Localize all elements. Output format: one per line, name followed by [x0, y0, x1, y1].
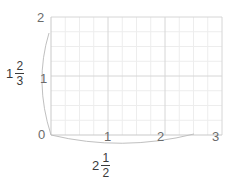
horizontal-dimension-label: 2 1 2 [92, 152, 110, 179]
horizontal-label-whole: 2 [92, 159, 99, 172]
x-tick-label-1: 1 [104, 130, 111, 143]
x-tick-label-2: 2 [157, 130, 164, 143]
vertical-dimension-label: 1 2 3 [6, 60, 24, 87]
plot-svg [0, 0, 229, 181]
coordinate-grid-figure: 2 1 0 1 2 3 1 2 3 2 1 2 [0, 0, 229, 181]
y-tick-label-2: 2 [37, 11, 44, 24]
vertical-label-denominator: 3 [15, 74, 24, 87]
vertical-label-numerator: 2 [15, 60, 24, 73]
x-tick-label-3: 3 [212, 130, 219, 143]
y-tick-label-1: 1 [40, 72, 47, 85]
vertical-label-fraction: 2 3 [15, 60, 24, 87]
vertical-label-whole: 1 [6, 67, 13, 80]
horizontal-label-fraction: 1 2 [101, 152, 110, 179]
y-tick-label-0: 0 [38, 128, 45, 141]
horizontal-label-numerator: 1 [101, 152, 110, 165]
horizontal-label-denominator: 2 [101, 166, 110, 179]
